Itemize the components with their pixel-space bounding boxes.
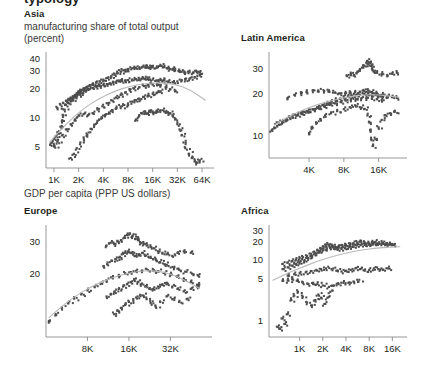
chart-subtitle-line1: manufacturing share of total output: [24, 21, 179, 34]
scatter-series: [49, 63, 203, 147]
chart-subtitle-line2: (percent): [24, 33, 64, 46]
figure-cut-title: typology: [24, 0, 80, 6]
y-tick-label: 10: [252, 254, 263, 265]
scatter-series: [276, 289, 334, 331]
y-tick-label: 30: [29, 65, 40, 76]
scatter-series: [346, 58, 400, 78]
panel-latin-america: Latin America 4K8K16K302010: [225, 32, 421, 192]
plot-europe: 8K16K32K3020: [0, 219, 225, 371]
x-tick-label: 32K: [162, 343, 180, 354]
xaxis-title: GDP per capita (PPP US dollars): [24, 188, 170, 199]
x-tick-label: 8K: [122, 174, 134, 185]
x-tick-label: 2K: [73, 174, 85, 185]
x-tick-label: 4K: [303, 164, 315, 175]
scatter-series: [281, 276, 364, 289]
x-tick-label: 16K: [120, 343, 138, 354]
scatter-series: [68, 89, 163, 161]
x-tick-label: 4K: [98, 174, 110, 185]
y-tick-label: 5: [35, 141, 40, 152]
plot-africa: 1K2K4K8K16K30201051: [225, 219, 421, 371]
panel-europe: Europe 8K16K32K3020: [0, 203, 225, 376]
x-tick-label: 32K: [169, 174, 187, 185]
x-tick-label: 1K: [48, 174, 60, 185]
x-tick-label: 4K: [340, 343, 352, 354]
x-tick-label: 16K: [370, 164, 388, 175]
scatter-series: [48, 268, 200, 324]
figure-root: typology Asia manufacturing share of tot…: [0, 0, 421, 376]
plot-asia: 1K2K4K8K16K32K64K403020105: [0, 48, 225, 193]
panel-asia: Asia manufacturing share of total output…: [0, 8, 225, 203]
y-tick-label: 40: [29, 53, 40, 64]
y-tick-label: 20: [29, 268, 40, 279]
panel-africa: Africa 1K2K4K8K16K30201051: [225, 203, 421, 376]
panel-title-europe: Europe: [24, 205, 57, 216]
y-tick-label: 30: [252, 225, 263, 236]
x-tick-label: 16K: [384, 343, 402, 354]
fit-curve: [50, 83, 205, 142]
y-tick-label: 10: [29, 112, 40, 123]
y-tick-label: 30: [29, 236, 40, 247]
scatter-series: [112, 293, 191, 317]
x-tick-label: 2K: [317, 343, 329, 354]
y-tick-label: 30: [252, 63, 263, 74]
fit-curve: [273, 247, 400, 281]
y-tick-label: 10: [252, 130, 263, 141]
y-tick-label: 1: [258, 315, 263, 326]
y-tick-label: 20: [29, 83, 40, 94]
panel-title-latin-america: Latin America: [241, 32, 305, 43]
x-tick-label: 1K: [294, 343, 306, 354]
plot-latin-america: 4K8K16K302010: [225, 46, 421, 188]
y-tick-label: 20: [252, 236, 263, 247]
panel-title-asia: Asia: [24, 8, 44, 19]
panel-title-africa: Africa: [241, 205, 269, 216]
x-tick-label: 16K: [144, 174, 162, 185]
x-tick-label: 64K: [194, 174, 212, 185]
x-tick-label: 8K: [363, 343, 375, 354]
x-tick-label: 8K: [338, 164, 350, 175]
scatter-series: [134, 108, 204, 166]
scatter-series: [105, 232, 194, 258]
y-tick-label: 20: [252, 88, 263, 99]
x-tick-label: 8K: [82, 343, 94, 354]
y-tick-label: 5: [258, 273, 263, 284]
